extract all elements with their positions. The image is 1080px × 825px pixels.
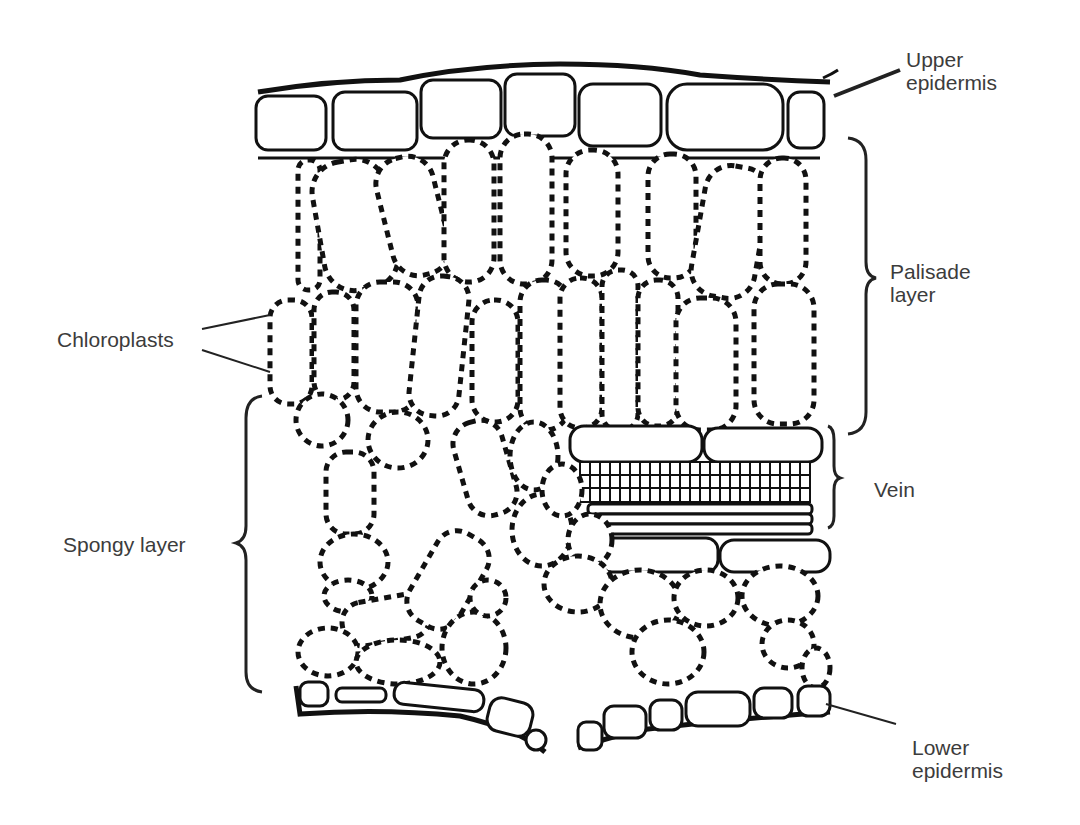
label-chloroplasts: Chloroplasts	[57, 328, 174, 351]
vein-brace	[828, 426, 840, 528]
label-upper-epidermis-line2: epidermis	[906, 71, 997, 94]
chloroplasts-leader-lower	[202, 350, 270, 372]
palisade-brace	[848, 138, 876, 434]
label-palisade-layer-line2: layer	[890, 283, 971, 306]
xylem-cells	[580, 462, 810, 502]
label-vein: Vein	[874, 478, 915, 501]
label-lower-epidermis-line2: epidermis	[912, 759, 1003, 782]
leaf-cross-section-diagram	[0, 0, 1080, 825]
phloem-cells	[588, 504, 812, 534]
chloroplasts-leader-upper	[202, 315, 270, 329]
lower-epidermis	[296, 681, 830, 752]
label-upper-epidermis: Upper epidermis	[906, 48, 997, 94]
lower-epidermis-leader	[826, 704, 896, 724]
label-lower-epidermis: Lower epidermis	[912, 736, 1003, 782]
label-palisade-layer: Palisade layer	[890, 260, 971, 306]
spongy-brace	[236, 396, 262, 692]
upper-epidermis-leader	[834, 70, 900, 96]
label-palisade-layer-line1: Palisade	[890, 260, 971, 283]
label-lower-epidermis-line1: Lower	[912, 736, 1003, 759]
label-upper-epidermis-line1: Upper	[906, 48, 997, 71]
label-spongy-layer: Spongy layer	[63, 533, 186, 556]
